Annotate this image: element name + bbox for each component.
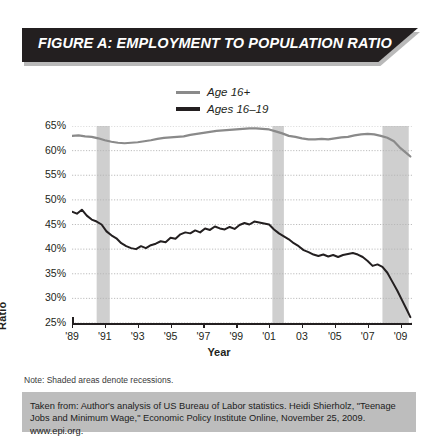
x-tick-mark [401,323,402,328]
y-tick-label: 25% [24,316,66,328]
figure-title-banner: FIGURE A: EMPLOYMENT TO POPULATION RATIO [0,24,438,70]
chart-legend: Age 16+ Ages 16–19 [176,86,268,115]
x-tick-mark [269,323,270,328]
legend-item-total: Age 16+ [176,86,268,98]
x-tick-mark [335,323,336,328]
source-citation: Taken from: Author's analysis of US Bure… [30,400,410,437]
series-line [72,128,410,156]
x-tick-mark [138,323,139,328]
y-tick-label: 35% [24,267,66,279]
y-tick-label: 60% [24,144,66,156]
x-tick-label: '95 [164,330,178,342]
x-tick-label: '01 [262,330,276,342]
y-tick-label: 45% [24,218,66,230]
x-tick-label: '89 [65,330,79,342]
x-tick-label: '93 [131,330,145,342]
legend-swatch-line-icon [176,107,200,112]
x-tick-mark [105,323,106,328]
y-tick-label: 40% [24,242,66,254]
y-tick-label: 55% [24,168,66,180]
x-tick-label: '05 [328,330,342,342]
legend-item-teen: Ages 16–19 [176,103,268,115]
series-line [72,210,410,317]
x-tick-label: '09 [394,330,408,342]
x-axis-line [72,323,412,325]
plot-canvas [72,126,412,323]
x-tick-mark [171,323,172,328]
x-tick-label: 03 [296,330,308,342]
x-tick-label: '99 [229,330,243,342]
legend-label-teen: Ages 16–19 [207,103,268,115]
x-tick-label: '97 [197,330,211,342]
legend-swatch-line-icon [176,91,200,94]
chart-area: Ratio 65%60%55%50%45%40%35%30%25% '89'91… [0,118,438,363]
x-tick-mark [368,323,369,328]
y-tick-label: 50% [24,193,66,205]
y-axis-label: Ratio [0,302,8,331]
x-tick-mark [236,323,237,328]
y-axis-ticks: 65%60%55%50%45%40%35%30%25% [22,118,66,323]
x-tick-mark [302,323,303,328]
y-tick-label: 30% [24,291,66,303]
chart-note: Note: Shaded areas denote recessions. [24,375,173,385]
x-tick-label: '07 [361,330,375,342]
x-axis-label: Year [0,346,438,358]
x-tick-mark [72,323,73,328]
x-tick-mark [203,323,204,328]
legend-label-total: Age 16+ [207,86,250,98]
page-title: FIGURE A: EMPLOYMENT TO POPULATION RATIO [38,35,392,51]
x-tick-label: '91 [98,330,112,342]
y-tick-label: 65% [24,119,66,131]
